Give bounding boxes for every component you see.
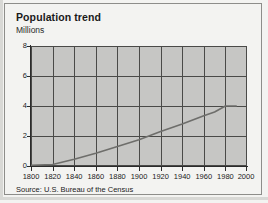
- x-tick-mark-1980: [225, 167, 226, 171]
- chart-source-note: Source: U.S. Bureau of the Census: [16, 185, 133, 194]
- x-tick-mark-1920: [161, 167, 162, 171]
- y-tick-label-2: 2: [15, 132, 27, 140]
- figure-bottom-edge-shadow: [0, 197, 268, 200]
- y-tick-mark-8: [27, 46, 31, 47]
- x-tick-mark-1900: [139, 167, 140, 171]
- y-tick-mark-6: [27, 76, 31, 77]
- y-tick-mark-4: [27, 106, 31, 107]
- y-tick-label-6: 6: [15, 72, 27, 80]
- x-tick-mark-1840: [74, 167, 75, 171]
- chart-title: Population trend: [16, 11, 101, 23]
- x-tick-mark-1860: [96, 167, 97, 171]
- x-tick-mark-2000: [246, 167, 247, 171]
- y-tick-label-4: 4: [15, 102, 27, 110]
- x-tick-mark-1800: [31, 167, 32, 171]
- x-tick-mark-1880: [117, 167, 118, 171]
- y-tick-label-0: 0: [15, 162, 27, 170]
- x-tick-mark-1960: [204, 167, 205, 171]
- y-tick-mark-2: [27, 136, 31, 137]
- figure-left-edge-shadow: [0, 0, 3, 197]
- x-tick-mark-1820: [53, 167, 54, 171]
- x-tick-label-2000: 2000: [233, 172, 259, 181]
- population-data-line: [31, 46, 247, 166]
- x-tick-mark-1940: [182, 167, 183, 171]
- chart-figure: Population trend Millions 8 6 4 2 0: [0, 0, 268, 203]
- y-tick-label-8: 8: [15, 42, 27, 50]
